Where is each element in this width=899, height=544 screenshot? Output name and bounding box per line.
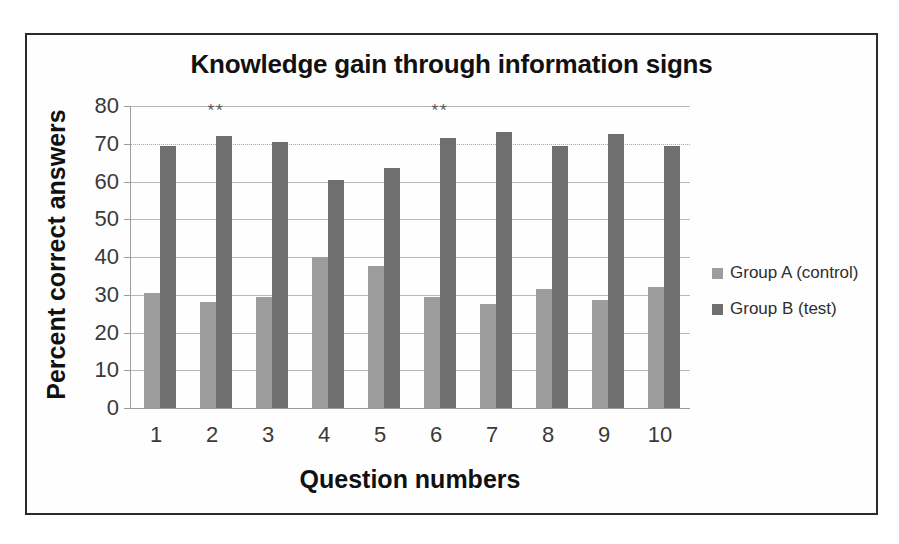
legend-item: Group B (test) bbox=[712, 299, 859, 319]
y-tick-label: 70 bbox=[95, 131, 119, 157]
bar-group-a bbox=[592, 300, 608, 408]
y-tick-label: 60 bbox=[95, 169, 119, 195]
bar-group bbox=[144, 106, 176, 408]
bar-group-b bbox=[552, 146, 568, 408]
bar-group bbox=[536, 106, 568, 408]
bar-group-b bbox=[384, 168, 400, 408]
y-tick-label: 40 bbox=[95, 244, 119, 270]
chart-legend: Group A (control)Group B (test) bbox=[712, 263, 859, 335]
bar-group bbox=[480, 106, 512, 408]
bar-group-a bbox=[536, 289, 552, 408]
bar-group-b bbox=[216, 136, 232, 408]
bar-group bbox=[648, 106, 680, 408]
figure-frame: Knowledge gain through information signs… bbox=[25, 33, 878, 515]
bar-group-a bbox=[368, 266, 384, 408]
legend-swatch bbox=[712, 268, 723, 279]
bar-group-a bbox=[312, 257, 328, 408]
y-tick-label: 80 bbox=[95, 93, 119, 119]
bar-group: ** bbox=[424, 106, 456, 408]
x-axis-title: Question numbers bbox=[130, 465, 690, 494]
x-tick-label: 3 bbox=[248, 422, 288, 448]
bar-group-a bbox=[480, 304, 496, 408]
bar-group-b bbox=[496, 132, 512, 408]
x-tick-label: 8 bbox=[528, 422, 568, 448]
x-tick-label: 6 bbox=[416, 422, 456, 448]
x-tick-label: 4 bbox=[304, 422, 344, 448]
x-tick-label: 10 bbox=[640, 422, 680, 448]
bar-group bbox=[368, 106, 400, 408]
bar-group-a bbox=[200, 302, 216, 408]
y-axis-title: Percent correct answers bbox=[42, 95, 71, 415]
bar-group-b bbox=[440, 138, 456, 408]
legend-label: Group B (test) bbox=[730, 299, 837, 319]
bar-group-b bbox=[272, 142, 288, 408]
bar-group: ** bbox=[200, 106, 232, 408]
y-tick-label: 50 bbox=[95, 206, 119, 232]
x-tick-label: 5 bbox=[360, 422, 400, 448]
x-tick-label: 9 bbox=[584, 422, 624, 448]
bar-group-b bbox=[664, 146, 680, 408]
gridline-0 bbox=[130, 408, 690, 409]
legend-swatch bbox=[712, 304, 723, 315]
legend-item: Group A (control) bbox=[712, 263, 859, 283]
x-tick-label: 1 bbox=[136, 422, 176, 448]
y-tick-mark bbox=[124, 408, 130, 409]
bars-layer: **** bbox=[130, 106, 690, 408]
chart-title: Knowledge gain through information signs bbox=[27, 49, 876, 80]
bar-group-b bbox=[328, 180, 344, 408]
plot-area: 01020304050607080 **** 12345678910 bbox=[130, 106, 690, 408]
bar-group-b bbox=[160, 146, 176, 408]
x-tick-label: 2 bbox=[192, 422, 232, 448]
bar-group-a bbox=[144, 293, 160, 408]
bar-group-a bbox=[424, 297, 440, 408]
significance-marker: ** bbox=[424, 102, 456, 119]
y-tick-label: 10 bbox=[95, 357, 119, 383]
bar-group bbox=[256, 106, 288, 408]
y-tick-label: 0 bbox=[107, 395, 119, 421]
y-tick-label: 20 bbox=[95, 320, 119, 346]
bar-group-a bbox=[648, 287, 664, 408]
bar-group-a bbox=[256, 297, 272, 408]
bar-group-b bbox=[608, 134, 624, 408]
significance-marker: ** bbox=[200, 102, 232, 119]
x-tick-label: 7 bbox=[472, 422, 512, 448]
y-tick-label: 30 bbox=[95, 282, 119, 308]
legend-label: Group A (control) bbox=[730, 263, 859, 283]
bar-group bbox=[312, 106, 344, 408]
bar-group bbox=[592, 106, 624, 408]
